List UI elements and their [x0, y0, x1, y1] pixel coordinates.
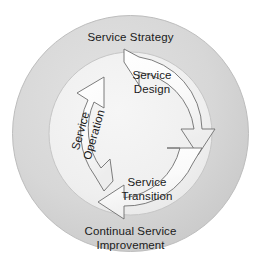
- service-strategy-label: Service Strategy: [88, 31, 174, 43]
- service-design-label-line2: Design: [134, 83, 170, 95]
- service-transition-label-line2: Transition: [121, 190, 172, 202]
- service-design-label-line1: Service: [132, 69, 171, 81]
- service-transition-label-line1: Service: [127, 176, 166, 188]
- continual-service-improvement-label-line2: Improvement: [96, 239, 165, 251]
- continual-service-improvement-label-line1: Continual Service: [85, 225, 177, 237]
- service-lifecycle-diagram: Service Design Service Transition Servic…: [0, 0, 259, 267]
- lifecycle-canvas: Service Design Service Transition Servic…: [0, 0, 259, 267]
